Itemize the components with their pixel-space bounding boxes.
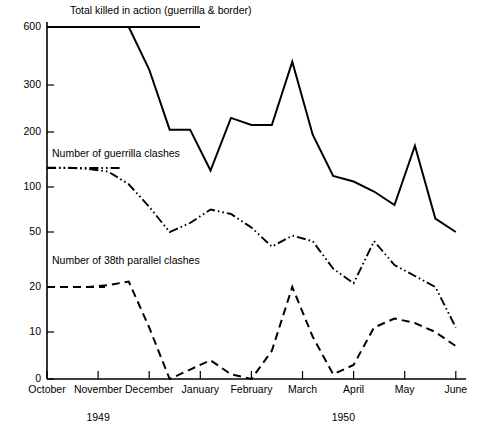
- y-tick-label: 200: [23, 125, 41, 137]
- x-tick-label: December: [125, 383, 174, 395]
- x-axis-year-labels: 19491950: [86, 411, 355, 423]
- series-line-total-killed-in-action: [47, 27, 456, 232]
- x-axis-tick-labels: OctoberNovemberDecemberJanuaryFebruaryMa…: [28, 383, 467, 395]
- y-tick-label: 10: [29, 325, 41, 337]
- x-axis-year-label: 1950: [332, 411, 356, 423]
- y-tick-label: 50: [29, 225, 41, 237]
- x-tick-label: March: [288, 383, 317, 395]
- series-label-guerrilla: Number of guerrilla clashes: [52, 147, 180, 159]
- y-tick-label: 20: [29, 280, 41, 292]
- y-tick-label: 100: [23, 180, 41, 192]
- line-chart-canvas: 0102050100200300600 OctoberNovemberDecem…: [0, 0, 483, 438]
- y-axis-tick-labels: 0102050100200300600: [23, 20, 41, 384]
- chart-figure: 0102050100200300600 OctoberNovemberDecem…: [0, 0, 483, 438]
- series-label-total-killed: Total killed in action (guerrilla & bord…: [70, 4, 252, 16]
- series-label-38th-parallel: Number of 38th parallel clashes: [52, 254, 200, 266]
- x-tick-label: October: [28, 383, 66, 395]
- y-tick-label: 600: [23, 20, 41, 32]
- series-line-38th-parallel-clashes: [47, 282, 456, 380]
- x-axis-year-label: 1949: [86, 411, 110, 423]
- y-tick-label: 300: [23, 78, 41, 90]
- x-tick-label: February: [230, 383, 273, 395]
- x-tick-label: April: [343, 383, 364, 395]
- x-tick-label: May: [395, 383, 416, 395]
- y-axis-ticks: [47, 27, 54, 379]
- x-tick-label: November: [74, 383, 123, 395]
- series-line-guerrilla-clashes: [47, 168, 456, 328]
- x-tick-label: January: [182, 383, 220, 395]
- x-tick-label: June: [444, 383, 467, 395]
